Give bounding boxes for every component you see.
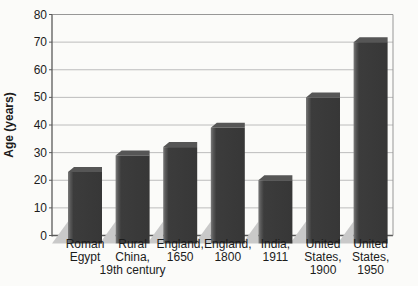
y-tick-label-10: 10 xyxy=(34,201,48,215)
x-label-line: England, xyxy=(204,237,251,251)
y-tick-label-40: 40 xyxy=(34,118,48,132)
x-label-line: 1800 xyxy=(214,250,241,264)
x-label-line: India, xyxy=(261,237,290,251)
y-tick-label-70: 70 xyxy=(34,35,48,49)
x-label-line: United xyxy=(306,237,341,251)
x-label-line: England, xyxy=(157,237,204,251)
bar-india-1911 xyxy=(258,175,292,243)
bar-england-1650 xyxy=(163,142,197,243)
bar-roman-egypt xyxy=(68,167,102,244)
x-label-line: States, xyxy=(352,250,389,264)
y-tick-label-50: 50 xyxy=(34,90,48,104)
life-expectancy-bar-chart-figure: 01020304050607080 RomanEgyptRuralChina,1… xyxy=(0,0,418,286)
bar-front-face xyxy=(211,128,245,244)
bar-front-face xyxy=(354,42,388,243)
y-axis-title: Age (years) xyxy=(2,92,16,157)
bar-rural-china-19th-century xyxy=(116,150,150,243)
x-label-line: Roman xyxy=(66,237,105,251)
x-label-united-states-1950: UnitedStates,1950 xyxy=(352,237,389,277)
y-tick-label-30: 30 xyxy=(34,146,48,160)
y-tick-label-0: 0 xyxy=(40,229,47,243)
x-label-line: States, xyxy=(304,250,341,264)
bar-front-face xyxy=(68,172,102,244)
x-label-line: Rural xyxy=(118,237,147,251)
x-label-line: 1900 xyxy=(310,263,337,277)
x-label-roman-egypt: RomanEgypt xyxy=(66,237,105,264)
bar-front-face xyxy=(306,97,340,243)
bar-front-face xyxy=(163,147,197,243)
bars xyxy=(68,37,388,243)
x-label-line: Egypt xyxy=(70,250,101,264)
x-label-england-1650: England,1650 xyxy=(157,237,204,264)
y-tick-label-20: 20 xyxy=(34,173,48,187)
bar-front-face xyxy=(258,180,292,243)
bar-top-face xyxy=(258,175,292,180)
x-label-line: 1911 xyxy=(262,250,288,264)
x-label-line: 1650 xyxy=(167,250,194,264)
y-tick-label-60: 60 xyxy=(34,63,48,77)
x-label-line: 19th century xyxy=(100,263,166,277)
bar-top-face xyxy=(116,150,150,155)
x-label-united-states-1900: UnitedStates,1900 xyxy=(304,237,341,277)
bar-top-face xyxy=(211,123,245,128)
x-label-india-1911: India,1911 xyxy=(261,237,290,264)
bar-top-face xyxy=(306,92,340,97)
bar-top-face xyxy=(163,142,197,147)
x-label-england-1800: England,1800 xyxy=(204,237,251,264)
x-label-line: United xyxy=(353,237,388,251)
bar-united-states-1950 xyxy=(354,37,388,243)
x-label-line: China, xyxy=(115,250,150,264)
bar-england-1800 xyxy=(211,123,245,244)
y-axis-tick-labels: 01020304050607080 xyxy=(34,8,52,243)
y-tick-label-80: 80 xyxy=(34,8,48,22)
x-label-line: 1950 xyxy=(357,263,384,277)
bar-top-face xyxy=(68,167,102,172)
chart-canvas: 01020304050607080 RomanEgyptRuralChina,1… xyxy=(0,0,418,286)
bar-top-face xyxy=(354,37,388,42)
bar-front-face xyxy=(116,155,150,243)
bar-united-states-1900 xyxy=(306,92,340,243)
